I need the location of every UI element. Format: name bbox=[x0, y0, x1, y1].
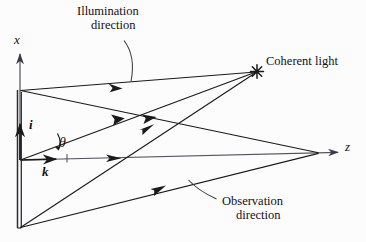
ray-arrow-icon bbox=[139, 124, 154, 135]
observation-line1: Observation bbox=[222, 194, 283, 208]
illumination-line2: direction bbox=[77, 18, 139, 32]
diagram-canvas: Illuminationdirection Coherent light Obs… bbox=[0, 0, 366, 242]
coherent-light-label: Coherent light bbox=[266, 54, 338, 68]
ray-arrow-icon bbox=[142, 115, 157, 124]
illumination-line1: Illumination bbox=[77, 4, 139, 18]
leader-illumination-icon bbox=[124, 41, 132, 82]
star-burst-icon bbox=[251, 65, 264, 78]
illumination-direction-label: Illuminationdirection bbox=[77, 4, 139, 33]
ray-illumination-top bbox=[21, 72, 257, 92]
observation-line2: direction bbox=[222, 208, 283, 222]
axis-x-label: x bbox=[14, 33, 20, 48]
axis-z bbox=[20, 152, 338, 160]
vector-k bbox=[21, 159, 57, 160]
ray-arrow-icon bbox=[109, 84, 123, 93]
axis-z-label: z bbox=[345, 140, 350, 155]
ray-illumination-bottom bbox=[21, 73, 257, 228]
leader-observation-icon bbox=[189, 180, 217, 199]
vector-k-label: k bbox=[42, 165, 49, 180]
observation-direction-label: Observationdirection bbox=[222, 194, 283, 223]
vector-i-label: i bbox=[29, 118, 33, 133]
diagram-svg bbox=[0, 0, 366, 242]
ray-origin-to-source bbox=[21, 72, 257, 160]
angle-theta-label: θ bbox=[59, 135, 66, 151]
